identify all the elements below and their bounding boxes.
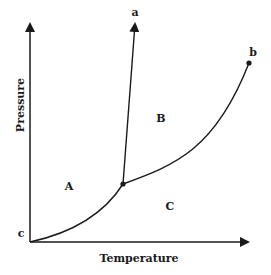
critical-point (246, 60, 251, 65)
label-a: a (131, 6, 138, 19)
region-C: C (166, 200, 175, 213)
y-axis-label: Pressure (14, 78, 27, 132)
label-c: c (18, 227, 25, 240)
region-B: B (156, 112, 165, 125)
region-A: A (64, 180, 74, 193)
label-b: b (249, 46, 257, 59)
vaporization-curve (123, 63, 249, 184)
triple-point (120, 181, 125, 186)
x-axis-label: Temperature (99, 252, 178, 265)
melting-curve (123, 24, 135, 184)
sublimation-curve (30, 184, 123, 242)
phase-diagram: a b c A B C Temperature Pressure (0, 0, 271, 275)
